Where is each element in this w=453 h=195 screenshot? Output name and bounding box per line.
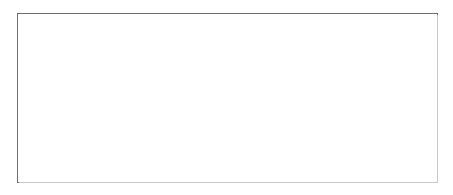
stacked-area-chart: [43, 32, 391, 149]
plot-area: [43, 32, 391, 149]
figure-frame: [17, 13, 438, 183]
